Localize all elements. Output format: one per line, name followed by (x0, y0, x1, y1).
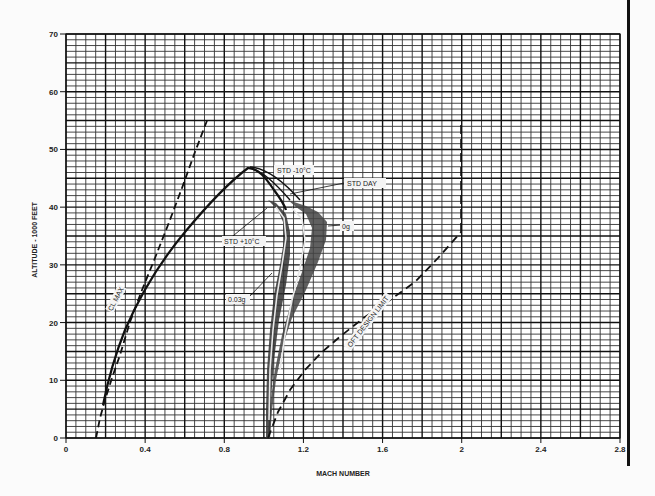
page-edge-bar (627, 0, 630, 466)
y-tick-label: 40 (49, 203, 58, 212)
x-tick-label: 2.8 (614, 445, 626, 454)
y-tick-label: 0 (54, 434, 59, 443)
y-tick-label: 60 (49, 88, 58, 97)
x-tick-label: 2.4 (535, 445, 547, 454)
label-003g: 0.03g (228, 296, 246, 304)
x-axis-label: MACH NUMBER (316, 470, 370, 477)
label-std-minus10: STD -10°C (277, 167, 311, 174)
y-tick-label: 70 (49, 30, 58, 39)
x-tick-label: 1.2 (298, 445, 310, 454)
y-axis-label: ALTITUDE - 1000 FEET (31, 201, 38, 277)
plot-area (66, 34, 620, 438)
x-tick-label: 2 (459, 445, 464, 454)
y-tick-label: 10 (49, 376, 58, 385)
x-tick-label: 1.6 (377, 445, 389, 454)
x-tick-label: 0.8 (219, 445, 231, 454)
x-tick-label: 0.4 (140, 445, 152, 454)
label-std-day: STD DAY (347, 180, 377, 187)
label-zero-g: 0g (342, 223, 350, 231)
flight-envelope-chart: 010203040506070 00.40.81.21.622.42.8 ALT… (0, 0, 655, 496)
y-tick-label: 20 (49, 319, 58, 328)
label-std-plus10: STD +10°C (224, 238, 260, 245)
x-tick-label: 0 (64, 445, 69, 454)
y-tick-label: 50 (49, 145, 58, 154)
y-tick-label: 30 (49, 261, 58, 270)
